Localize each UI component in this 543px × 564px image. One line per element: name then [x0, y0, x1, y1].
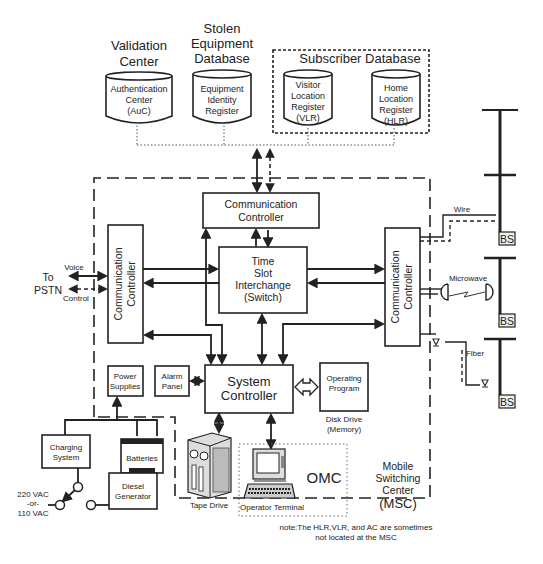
top-communication-controller: Communication Controller — [203, 193, 319, 228]
microwave-dish-left — [441, 284, 448, 300]
svg-text:Batteries: Batteries — [126, 454, 158, 463]
validation-center: Validation Center Authentication Center … — [106, 38, 172, 123]
svg-text:Mobile: Mobile — [383, 460, 414, 472]
diesel-generator: Diesel Generator — [109, 473, 157, 509]
svg-text:Diesel: Diesel — [122, 482, 144, 491]
alarm-panel: Alarm Panel — [155, 366, 189, 396]
svg-text:110 VAC: 110 VAC — [18, 509, 49, 518]
svg-text:Location: Location — [291, 91, 325, 101]
svg-text:Controller: Controller — [238, 211, 284, 223]
msc-label: Mobile Switching Center (MSC) — [376, 460, 421, 511]
microwave-link: Microwave — [420, 274, 493, 300]
svg-text:Database: Database — [194, 51, 250, 66]
svg-text:note:The HLR,VLR, and AC are s: note:The HLR,VLR, and AC are sometimes — [280, 523, 433, 532]
eir-cylinder: Equipment Identity Register — [193, 70, 251, 123]
system-controller: System Controller — [205, 365, 293, 413]
validation-center-title: Validation — [111, 38, 167, 53]
svg-text:OMC: OMC — [307, 469, 342, 486]
disk-drive-label: Disk Drive — [326, 415, 363, 424]
charging-system: Charging System — [42, 435, 90, 468]
svg-text:(Memory): (Memory) — [327, 425, 362, 434]
subscriber-database-title: Subscriber Database — [299, 51, 420, 66]
svg-text:To: To — [42, 271, 53, 283]
msc-architecture-diagram: Validation Center Authentication Center … — [0, 0, 543, 564]
svg-text:-or-: -or- — [27, 499, 40, 508]
base-station-2: BS — [484, 258, 516, 327]
svg-text:Communication: Communication — [225, 198, 298, 210]
svg-text:Operator Terminal: Operator Terminal — [240, 503, 304, 512]
time-slot-interchange: Time Slot Interchange (Switch) — [219, 247, 307, 313]
svg-text:BS: BS — [500, 396, 514, 408]
hlr-cylinder: Home Location Register (HLR) — [372, 70, 420, 126]
svg-text:Fiber: Fiber — [466, 349, 485, 358]
svg-text:(Switch): (Switch) — [244, 291, 282, 303]
svg-text:Center: Center — [125, 95, 152, 105]
base-station-3: BS — [484, 339, 516, 408]
svg-text:BS: BS — [500, 233, 514, 245]
svg-text:Communication: Communication — [112, 247, 124, 320]
svg-text:Alarm: Alarm — [162, 372, 183, 381]
svg-text:Register: Register — [291, 102, 325, 112]
svg-text:Visitor: Visitor — [296, 80, 321, 90]
auc-cylinder: Authentication Center (AuC) — [106, 72, 172, 123]
pstn-connection: To PSTN Voice Control — [34, 263, 106, 303]
power-supplies: Power Supplies — [108, 366, 143, 396]
svg-text:Wire: Wire — [454, 205, 471, 214]
svg-text:Register: Register — [379, 105, 413, 115]
control-label: Control — [63, 294, 89, 303]
svg-text:Slot: Slot — [254, 267, 272, 279]
validation-center-title-2: Center — [119, 54, 159, 69]
operating-program: Operating Program Disk Drive (Memory) — [320, 363, 368, 434]
wire-link: Wire — [420, 205, 498, 241]
svg-text:220 VAC: 220 VAC — [17, 490, 49, 499]
svg-text:Controller: Controller — [402, 264, 414, 310]
svg-text:not located at the MSC: not located at the MSC — [315, 533, 397, 542]
svg-text:Operating: Operating — [326, 374, 361, 383]
svg-text:(MSC): (MSC) — [379, 496, 417, 511]
right-communication-controller: Communication Controller — [385, 228, 420, 346]
microwave-dish-right — [486, 284, 493, 300]
vlr-cylinder: Visitor Location Register (VLR) — [284, 70, 332, 125]
svg-text:Stolen: Stolen — [204, 21, 241, 36]
stolen-equipment-database: Stolen Equipment Database Equipment Iden… — [191, 21, 254, 123]
power-system: Charging System Batteries Diesel Generat… — [17, 398, 163, 518]
svg-text:Identity: Identity — [207, 95, 237, 105]
svg-text:Controller: Controller — [125, 261, 137, 307]
svg-text:Microwave: Microwave — [449, 274, 488, 283]
base-station-1: BS — [482, 110, 518, 245]
svg-text:(HLR): (HLR) — [384, 116, 408, 126]
svg-text:(AuC): (AuC) — [127, 106, 151, 116]
omc-area: OMC Operator Terminal — [239, 444, 347, 516]
transfer-switch — [63, 490, 75, 501]
svg-text:Register: Register — [205, 106, 239, 116]
operator-terminal: Operator Terminal — [240, 449, 304, 512]
svg-text:Tape Drive: Tape Drive — [190, 501, 229, 510]
switch-terminal — [56, 501, 65, 510]
svg-text:Switching: Switching — [376, 472, 421, 484]
svg-text:Program: Program — [329, 384, 360, 393]
subscriber-database: Subscriber Database Visitor Location Reg… — [273, 50, 429, 133]
svg-text:Time: Time — [252, 255, 275, 267]
footnote: note:The HLR,VLR, and AC are sometimes n… — [280, 523, 433, 542]
svg-text:Charging: Charging — [50, 443, 82, 452]
svg-text:Interchange: Interchange — [235, 279, 291, 291]
svg-text:System: System — [53, 453, 80, 462]
svg-text:Panel: Panel — [162, 382, 183, 391]
switch-terminal — [87, 501, 96, 510]
batteries: Batteries — [121, 439, 163, 473]
left-communication-controller: Communication Controller — [108, 225, 143, 343]
svg-text:System: System — [227, 374, 270, 389]
svg-text:Location: Location — [379, 94, 413, 104]
svg-text:Power: Power — [114, 372, 137, 381]
memory-bus-arrow — [295, 379, 318, 395]
svg-text:Center: Center — [382, 484, 414, 496]
svg-text:Home: Home — [384, 83, 408, 93]
svg-text:Generator: Generator — [115, 492, 151, 501]
svg-text:Supplies: Supplies — [110, 382, 141, 391]
svg-text:PSTN: PSTN — [34, 284, 62, 296]
svg-text:(VLR): (VLR) — [296, 113, 320, 123]
svg-text:Equipment: Equipment — [191, 36, 254, 51]
svg-text:BS: BS — [500, 315, 514, 327]
svg-text:Authentication: Authentication — [110, 84, 167, 94]
svg-text:Equipment: Equipment — [200, 84, 244, 94]
